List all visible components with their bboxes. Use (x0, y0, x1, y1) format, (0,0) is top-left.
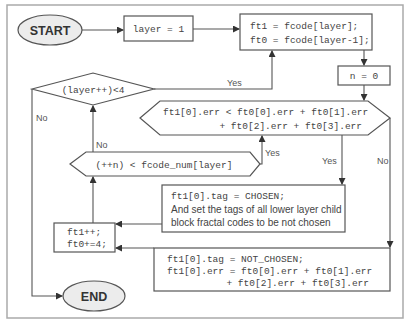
assign-ft-line2: ft0 = fcode[layer-1]; (250, 35, 370, 46)
assign-ft-line1: ft1 = fcode[layer]; (250, 21, 358, 32)
start-label: START (30, 24, 71, 38)
compare-err-line1: ft1[0].err < ft0[0].err + ft0[1].err (163, 107, 368, 118)
n-no-label: No (96, 140, 108, 150)
init-layer-box: layer = 1 (124, 16, 193, 41)
n-check-decision: (++n) < fcode_num[layer] (70, 152, 260, 176)
init-n-label: n = 0 (350, 71, 379, 82)
chosen-line3: block fractal codes to be not chosen (171, 217, 331, 228)
increment-line1: ft1++; (67, 227, 101, 238)
not-chosen-line2: ft1[0].err = ft0[0].err + ft0[1].err (167, 266, 372, 277)
start-terminal: START (18, 15, 82, 45)
assign-ft-box: ft1 = fcode[layer]; ft0 = fcode[layer-1]… (240, 14, 372, 50)
chosen-box: ft1[0].tag = CHOSEN; And set the tags of… (162, 185, 345, 232)
cmp-yes-label: Yes (322, 156, 337, 166)
layer-yes-label: Yes (227, 78, 242, 88)
cmp-no-label: No (377, 156, 389, 166)
end-label: END (81, 290, 107, 304)
not-chosen-line1: ft1[0].tag = NOT_CHOSEN; (167, 254, 304, 265)
compare-err-line2: + ft0[2].err + ft0[3].err (219, 121, 362, 132)
chosen-line1: ft1[0].tag = CHOSEN; (171, 191, 285, 202)
end-terminal: END (63, 281, 125, 311)
not-chosen-box: ft1[0].tag = NOT_CHOSEN; ft1[0].err = ft… (154, 248, 390, 291)
n-check-label: (++n) < fcode_num[layer] (96, 160, 233, 171)
init-n-box: n = 0 (338, 66, 390, 85)
not-chosen-line3: + ft0[2].err + ft0[3].err (226, 278, 369, 289)
init-layer-label: layer = 1 (133, 24, 185, 35)
n-yes-label: Yes (265, 148, 280, 158)
chosen-line2: And set the tags of all lower layer chil… (171, 204, 342, 215)
increment-box: ft1++; ft0+=4; (54, 223, 115, 252)
layer-check-label: (layer++)<4 (62, 85, 125, 96)
layer-no-label: No (36, 113, 48, 123)
flowchart-canvas: START layer = 1 ft1 = fcode[layer]; ft0 … (0, 0, 407, 323)
compare-err-decision: ft1[0].err < ft0[0].err + ft0[1].err + f… (140, 101, 390, 135)
increment-line2: ft0+=4; (67, 239, 107, 250)
